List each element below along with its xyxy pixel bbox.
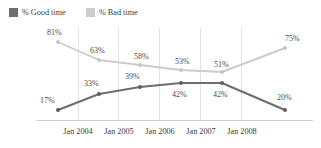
x-tick-jan-2005: Jan 2005 [104,126,133,137]
legend-item-bad-time[interactable]: % Bad time [86,7,138,18]
data-label-good-time: 39% [125,72,140,81]
x-tick-jan-2006: Jan 2006 [145,126,174,137]
data-label-good-time: 17% [40,96,55,105]
chart-legend: % Good time % Bad time [0,0,321,26]
data-label-bad-time: 51% [214,60,229,69]
legend-label-bad-time: % Bad time [99,7,138,18]
legend-item-good-time[interactable]: % Good time [9,7,66,18]
legend-label-good-time: % Good time [22,7,66,18]
x-axis-labels: Jan 2004 Jan 2005 Jan 2006 Jan 2007 Jan … [0,126,321,146]
x-tick-jan-2008: Jan 2008 [227,126,256,137]
x-tick-jan-2004: Jan 2004 [63,126,92,137]
legend-swatch-bad-time [86,8,95,17]
vertical-gridlines [79,28,242,120]
data-label-bad-time: 63% [90,46,105,55]
data-label-bad-time: 81% [47,28,62,37]
line-chart: % Good time % Bad time [0,0,321,148]
data-label-good-time: 42% [172,90,187,99]
data-label-good-time: 33% [84,79,99,88]
data-label-bad-time: 53% [175,57,190,66]
data-label-good-time: 42% [213,90,228,99]
legend-swatch-good-time [9,8,18,17]
data-label-good-time: 20% [277,93,292,102]
data-label-bad-time: 75% [285,34,300,43]
plot-area: 81% 63% 58% 53% 51% 75% 17% 33% 39% 42% … [0,26,321,122]
x-tick-jan-2007: Jan 2007 [186,126,215,137]
data-label-bad-time: 58% [134,52,149,61]
